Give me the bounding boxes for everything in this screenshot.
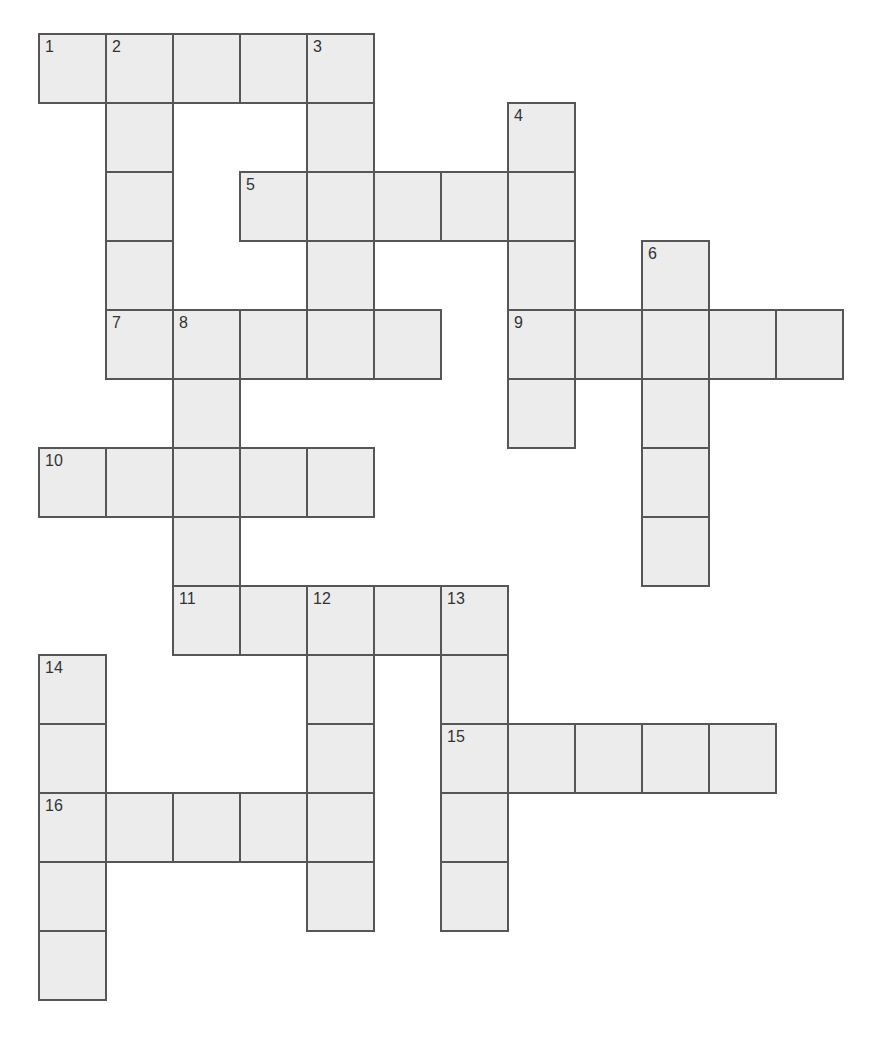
letter-input[interactable] bbox=[40, 449, 105, 516]
crossword-cell[interactable] bbox=[306, 309, 375, 380]
crossword-cell[interactable] bbox=[641, 378, 710, 449]
letter-input[interactable] bbox=[241, 311, 306, 378]
letter-input[interactable] bbox=[308, 587, 373, 654]
crossword-cell[interactable]: 3 bbox=[306, 33, 375, 104]
letter-input[interactable] bbox=[174, 449, 239, 516]
letter-input[interactable] bbox=[107, 35, 172, 102]
crossword-cell[interactable]: 5 bbox=[239, 171, 308, 242]
letter-input[interactable] bbox=[107, 173, 172, 240]
crossword-cell[interactable] bbox=[507, 723, 576, 794]
letter-input[interactable] bbox=[308, 794, 373, 861]
letter-input[interactable] bbox=[241, 35, 306, 102]
crossword-cell[interactable]: 11 bbox=[172, 585, 241, 656]
letter-input[interactable] bbox=[777, 311, 842, 378]
letter-input[interactable] bbox=[40, 863, 105, 930]
letter-input[interactable] bbox=[710, 725, 775, 792]
letter-input[interactable] bbox=[442, 587, 507, 654]
letter-input[interactable] bbox=[107, 242, 172, 309]
crossword-cell[interactable] bbox=[306, 102, 375, 173]
crossword-cell[interactable] bbox=[775, 309, 844, 380]
letter-input[interactable] bbox=[643, 449, 708, 516]
crossword-cell[interactable]: 10 bbox=[38, 447, 107, 518]
crossword-cell[interactable] bbox=[507, 378, 576, 449]
crossword-cell[interactable] bbox=[306, 723, 375, 794]
crossword-cell[interactable] bbox=[574, 309, 643, 380]
crossword-cell[interactable] bbox=[38, 930, 107, 1001]
crossword-cell[interactable] bbox=[38, 723, 107, 794]
letter-input[interactable] bbox=[40, 35, 105, 102]
letter-input[interactable] bbox=[241, 449, 306, 516]
crossword-cell[interactable]: 8 bbox=[172, 309, 241, 380]
crossword-cell[interactable]: 2 bbox=[105, 33, 174, 104]
crossword-cell[interactable] bbox=[306, 861, 375, 932]
crossword-cell[interactable]: 12 bbox=[306, 585, 375, 656]
crossword-cell[interactable]: 9 bbox=[507, 309, 576, 380]
letter-input[interactable] bbox=[375, 173, 440, 240]
crossword-cell[interactable] bbox=[105, 447, 174, 518]
crossword-cell[interactable]: 14 bbox=[38, 654, 107, 725]
letter-input[interactable] bbox=[509, 173, 574, 240]
letter-input[interactable] bbox=[710, 311, 775, 378]
letter-input[interactable] bbox=[241, 173, 306, 240]
crossword-cell[interactable] bbox=[373, 309, 442, 380]
crossword-cell[interactable]: 15 bbox=[440, 723, 509, 794]
crossword-cell[interactable] bbox=[708, 723, 777, 794]
crossword-cell[interactable] bbox=[105, 792, 174, 863]
crossword-cell[interactable] bbox=[239, 792, 308, 863]
letter-input[interactable] bbox=[643, 380, 708, 447]
crossword-cell[interactable]: 6 bbox=[641, 240, 710, 311]
letter-input[interactable] bbox=[174, 794, 239, 861]
letter-input[interactable] bbox=[643, 311, 708, 378]
crossword-cell[interactable] bbox=[708, 309, 777, 380]
letter-input[interactable] bbox=[509, 725, 574, 792]
crossword-cell[interactable] bbox=[306, 654, 375, 725]
letter-input[interactable] bbox=[174, 518, 239, 585]
crossword-cell[interactable] bbox=[440, 792, 509, 863]
crossword-cell[interactable] bbox=[172, 792, 241, 863]
crossword-cell[interactable] bbox=[306, 447, 375, 518]
letter-input[interactable] bbox=[643, 518, 708, 585]
letter-input[interactable] bbox=[509, 311, 574, 378]
letter-input[interactable] bbox=[241, 794, 306, 861]
letter-input[interactable] bbox=[40, 656, 105, 723]
letter-input[interactable] bbox=[308, 311, 373, 378]
crossword-cell[interactable]: 1 bbox=[38, 33, 107, 104]
letter-input[interactable] bbox=[241, 587, 306, 654]
crossword-cell[interactable] bbox=[306, 792, 375, 863]
crossword-cell[interactable] bbox=[507, 171, 576, 242]
letter-input[interactable] bbox=[509, 242, 574, 309]
crossword-cell[interactable]: 4 bbox=[507, 102, 576, 173]
letter-input[interactable] bbox=[174, 587, 239, 654]
crossword-cell[interactable] bbox=[105, 102, 174, 173]
letter-input[interactable] bbox=[107, 104, 172, 171]
crossword-cell[interactable] bbox=[105, 171, 174, 242]
letter-input[interactable] bbox=[308, 104, 373, 171]
crossword-cell[interactable] bbox=[373, 585, 442, 656]
letter-input[interactable] bbox=[576, 725, 641, 792]
crossword-cell[interactable] bbox=[306, 171, 375, 242]
crossword-cell[interactable] bbox=[373, 171, 442, 242]
letter-input[interactable] bbox=[375, 311, 440, 378]
letter-input[interactable] bbox=[643, 725, 708, 792]
letter-input[interactable] bbox=[40, 794, 105, 861]
letter-input[interactable] bbox=[442, 173, 507, 240]
letter-input[interactable] bbox=[509, 380, 574, 447]
letter-input[interactable] bbox=[643, 242, 708, 309]
letter-input[interactable] bbox=[107, 311, 172, 378]
crossword-cell[interactable] bbox=[38, 861, 107, 932]
letter-input[interactable] bbox=[40, 932, 105, 999]
crossword-cell[interactable] bbox=[239, 585, 308, 656]
letter-input[interactable] bbox=[308, 173, 373, 240]
letter-input[interactable] bbox=[509, 104, 574, 171]
crossword-cell[interactable] bbox=[239, 309, 308, 380]
crossword-cell[interactable] bbox=[641, 309, 710, 380]
letter-input[interactable] bbox=[308, 242, 373, 309]
crossword-cell[interactable] bbox=[440, 861, 509, 932]
letter-input[interactable] bbox=[308, 656, 373, 723]
letter-input[interactable] bbox=[107, 449, 172, 516]
crossword-cell[interactable]: 13 bbox=[440, 585, 509, 656]
letter-input[interactable] bbox=[442, 725, 507, 792]
crossword-cell[interactable] bbox=[641, 447, 710, 518]
letter-input[interactable] bbox=[308, 35, 373, 102]
crossword-cell[interactable] bbox=[239, 33, 308, 104]
